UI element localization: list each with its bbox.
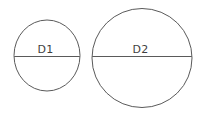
small-circle-label: D1 (37, 43, 53, 56)
diagram-canvas: D1 D2 (0, 0, 201, 114)
small-circle-group: D1 (14, 20, 80, 91)
two-circles-diagram: D1 D2 (0, 0, 201, 114)
small-circle-outline (14, 20, 80, 91)
large-circle-label: D2 (132, 43, 148, 56)
large-circle-outline (92, 9, 192, 108)
large-circle-group: D2 (92, 9, 192, 108)
